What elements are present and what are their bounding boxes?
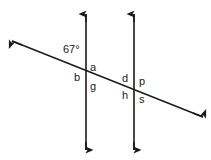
transversal-line (12, 41, 203, 117)
angle-label-h: h (122, 90, 128, 101)
geometry-figure: 67° a b g d p h s (0, 0, 211, 160)
angle-label-g: g (90, 81, 96, 92)
angle-measure-67-label: 67° (63, 44, 80, 55)
angle-label-s: s (139, 94, 145, 105)
geometry-canvas (0, 0, 211, 160)
transversal-right-arrowhead (193, 113, 203, 117)
angle-label-p: p (139, 76, 145, 87)
angle-label-b: b (74, 72, 80, 83)
angle-label-d: d (122, 73, 128, 84)
transversal-left-arrowhead (12, 41, 22, 45)
transversal-line-segment (12, 41, 203, 117)
angle-label-a: a (90, 62, 96, 73)
